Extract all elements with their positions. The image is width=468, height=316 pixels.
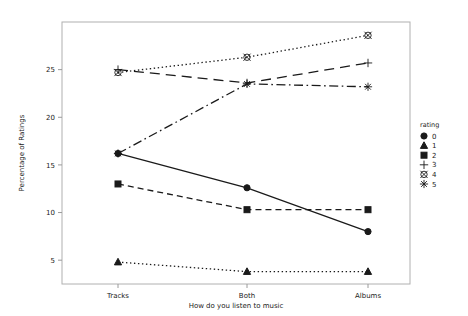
legend-item-label: 2 — [432, 152, 436, 160]
x-tick-label-tracks: Tracks — [106, 292, 129, 300]
series-rating-5 — [114, 80, 372, 158]
legend-item-1[interactable]: 1 — [420, 142, 436, 150]
legend-item-4[interactable]: 4 — [420, 171, 437, 179]
series-rating-4 — [114, 32, 371, 76]
y-axis-ticks: 510152025 — [46, 66, 62, 265]
x-tick-label-albums: Albums — [355, 292, 381, 300]
x-tick-label-both: Both — [239, 292, 255, 300]
series-layer — [114, 32, 372, 275]
legend-item-3[interactable]: 3 — [420, 161, 437, 170]
legend-item-2[interactable]: 2 — [421, 152, 436, 160]
plot-frame — [62, 22, 410, 284]
y-tick-label: 5 — [51, 257, 55, 265]
series-rating-3 — [114, 59, 372, 87]
legend-item-label: 0 — [432, 133, 436, 141]
x-axis-label: How do you listen to music — [189, 302, 284, 310]
legend-item-0[interactable]: 0 — [421, 133, 437, 141]
y-tick-label: 25 — [46, 66, 55, 74]
legend-item-label: 5 — [432, 181, 436, 189]
legend-item-label: 3 — [432, 161, 436, 169]
chart-legend: rating012345 — [420, 121, 439, 189]
y-tick-label: 15 — [46, 162, 55, 170]
legend-item-label: 4 — [432, 171, 437, 179]
line-chart: 510152025 TracksBothAlbums rating012345 … — [0, 0, 468, 316]
legend-item-label: 1 — [432, 142, 436, 150]
legend-item-5[interactable]: 5 — [420, 180, 437, 189]
series-rating-0 — [115, 150, 371, 234]
legend-title: rating — [420, 121, 439, 129]
y-tick-label: 10 — [46, 209, 55, 217]
chart-canvas: 510152025 TracksBothAlbums rating012345 … — [0, 0, 468, 316]
x-axis-ticks: TracksBothAlbums — [106, 284, 381, 300]
series-rating-1 — [114, 258, 371, 274]
series-rating-2 — [115, 181, 371, 213]
y-axis-label: Percentage of Ratings — [18, 114, 26, 191]
y-tick-label: 20 — [46, 114, 55, 122]
